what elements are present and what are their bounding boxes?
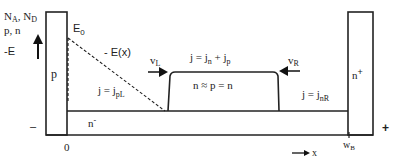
n-minus-region-label: n- xyxy=(88,116,97,129)
right-current-label: j = jnR xyxy=(301,88,330,103)
y-axis-arrow-icon xyxy=(33,34,43,59)
plasma-plateau-curve xyxy=(168,72,279,111)
y-axis-label-doping: NA, ND xyxy=(4,10,37,24)
pin-diode-plasma-diagram: NA, ND p, n -E p n- n+ n ≈ p = n E0 - E(… xyxy=(0,0,405,163)
left-current-label: j = jpL xyxy=(97,84,125,99)
n-plus-region-label: n+ xyxy=(352,67,363,81)
y-axis-label-carriers: p, n xyxy=(4,24,21,36)
vl-arrow-icon xyxy=(148,67,168,77)
field-profile-label: - E(x) xyxy=(104,46,131,58)
x-axis-arrow-icon xyxy=(292,150,310,156)
vr-label: vR xyxy=(288,54,300,68)
y-axis-label-field: -E xyxy=(4,45,15,57)
origin-label: 0 xyxy=(64,141,70,153)
vl-label: vL xyxy=(150,54,161,68)
p-region-label: p xyxy=(51,67,57,81)
plasma-region-label: n ≈ p = n xyxy=(193,79,233,91)
anode-minus-label: – xyxy=(30,120,37,132)
e0-label: E0 xyxy=(73,22,85,37)
wb-label: wB xyxy=(343,139,355,152)
total-current-label: j = jn + jp xyxy=(189,51,231,66)
cathode-plus-label: + xyxy=(382,121,389,135)
x-axis-label: x xyxy=(312,147,317,158)
